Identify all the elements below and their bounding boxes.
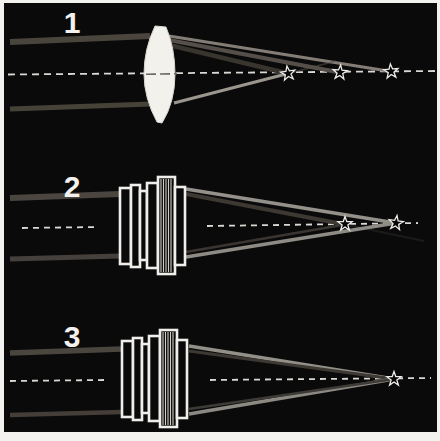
converging-ray [174,74,288,104]
optical-axis [22,227,99,228]
converging-ray [186,225,345,253]
lens-barrel-3 [122,330,187,427]
incoming-ray-bottom [10,412,122,415]
converging-ray [189,351,394,379]
panel-label: 1 [64,6,81,39]
focal-point-star-icon [338,217,352,231]
converging-ray [189,379,394,409]
diagram-canvas: 1 2 [0,0,440,441]
focal-point-star-icon [387,372,401,386]
converging-ray [186,189,396,223]
lens-barrel-2 [120,177,185,274]
panel-1: 1 [8,6,436,123]
optical-axis [10,380,104,381]
figure-page: 1 2 [0,0,440,441]
converging-ray [186,223,396,257]
diverging-ray [345,225,424,242]
focal-point-star-icon [332,64,347,79]
panel-2: 2 [10,170,424,274]
focal-point-star-icon [383,63,398,78]
panel-label: 2 [64,170,81,203]
incoming-ray-bottom [10,104,151,109]
optical-diagram-figure: 1 2 [4,3,437,432]
incoming-ray-bottom [10,256,120,259]
panel-label: 3 [64,320,81,353]
optical-axis [8,71,436,75]
panel-3: 3 [10,320,431,427]
